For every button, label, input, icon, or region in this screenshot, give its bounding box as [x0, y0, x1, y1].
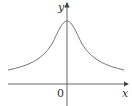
y-axis-label: y [57, 1, 65, 14]
x-axis-label: x [122, 87, 129, 100]
origin-label: 0 [57, 87, 64, 100]
bell-curve [8, 21, 124, 70]
graph: y 0 x [0, 0, 132, 106]
